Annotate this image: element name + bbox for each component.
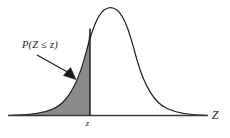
normal-curve	[10, 8, 206, 115]
z-tick-label: z	[85, 118, 90, 128]
z-axis-label: Z	[212, 108, 219, 122]
normal-distribution-figure: P(Z ≤ z) z Z	[0, 0, 230, 138]
annotation-arrow-head	[64, 68, 77, 80]
probability-label: P(Z ≤ z)	[21, 39, 58, 51]
annotation-arrow-shaft	[37, 55, 71, 74]
figure-canvas: P(Z ≤ z) z Z	[0, 0, 230, 138]
